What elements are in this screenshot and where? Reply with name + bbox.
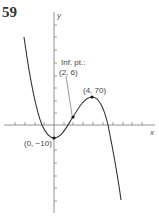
inflection-title-label: Inf. pt.: [61,58,85,67]
y-ticks [54,25,57,201]
inflection-leader-line [66,76,72,115]
y-axis-label: y [56,11,62,20]
x-ticks [15,122,142,125]
inflection-point [71,115,74,118]
x-axis-label: x [149,128,155,137]
min-point [52,136,55,139]
inflection-coords-label: (2, 6) [59,68,78,77]
max-label: (4, 70) [83,86,106,95]
min-label: (0, −10) [24,139,52,148]
max-point [90,95,93,98]
chart: y x Inf. pt.: (2, 6) (4, 70) (0, −10) [0,0,159,219]
